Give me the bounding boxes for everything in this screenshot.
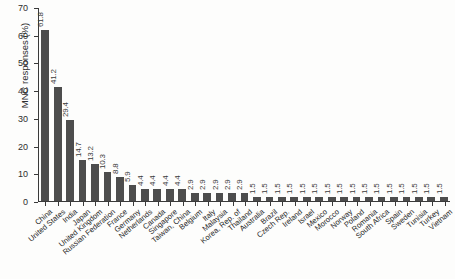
bar-value-label: 1.5	[249, 183, 257, 194]
bar-chart-figure: MNC responses (%) 010203040506070 61.841…	[0, 0, 455, 279]
bar-slot: 1.5	[288, 8, 300, 201]
bar[interactable]: 2.9	[203, 193, 211, 201]
bar-value-label: 10.3	[99, 155, 107, 170]
bar-slot: 61.8	[39, 8, 51, 201]
x-tick	[83, 202, 84, 206]
x-tick	[257, 202, 258, 206]
bar[interactable]: 4.4	[166, 189, 174, 201]
bar-value-label: 1.5	[261, 183, 269, 194]
bar-slot: 4.4	[151, 8, 163, 201]
bar-value-label: 4.4	[149, 175, 157, 186]
bar-slot: 5.9	[126, 8, 138, 201]
bar[interactable]: 4.4	[153, 189, 161, 201]
bar[interactable]: 1.5	[278, 197, 286, 201]
bar-slot: 14.7	[76, 8, 88, 201]
bar-slot: 1.5	[251, 8, 263, 201]
y-tick-20: 20	[34, 147, 38, 148]
bar[interactable]: 1.5	[290, 197, 298, 201]
bar[interactable]: 1.5	[253, 197, 261, 201]
plot-area: 010203040506070 61.841.229.414.713.210.3…	[38, 8, 450, 202]
bar-value-label: 13.2	[87, 147, 95, 162]
bar[interactable]: 1.5	[340, 197, 348, 201]
bar[interactable]: 1.5	[427, 197, 435, 201]
bar[interactable]: 13.2	[91, 164, 99, 201]
x-tick	[432, 202, 433, 206]
x-tick	[95, 202, 96, 206]
bar[interactable]: 1.5	[315, 197, 323, 201]
bar[interactable]: 1.5	[353, 197, 361, 201]
x-tick	[270, 202, 271, 206]
y-tick-label-50: 50	[18, 59, 28, 68]
bar[interactable]: 2.9	[191, 193, 199, 201]
bar-value-label: 1.5	[286, 183, 294, 194]
bar[interactable]: 4.4	[141, 189, 149, 201]
bar-slot: 1.5	[325, 8, 337, 201]
bar-slot: 1.5	[400, 8, 412, 201]
bar-slot: 29.4	[64, 8, 76, 201]
bar-slot: 4.4	[139, 8, 151, 201]
bar-slot: 4.4	[164, 8, 176, 201]
bar-slot: 1.5	[375, 8, 387, 201]
x-tick	[183, 202, 184, 206]
bar[interactable]: 1.5	[403, 197, 411, 201]
x-tick	[320, 202, 321, 206]
bar-slot: 1.5	[263, 8, 275, 201]
bar-value-label: 1.5	[324, 183, 332, 194]
bar-slot: 1.5	[438, 8, 450, 201]
x-tick	[233, 202, 234, 206]
x-tick	[445, 202, 446, 206]
bar[interactable]: 10.3	[104, 172, 112, 201]
x-tick	[382, 202, 383, 206]
bar-value-label: 1.5	[311, 183, 319, 194]
y-axis-title: MNC responses (%)	[19, 0, 30, 146]
y-tick-40: 40	[34, 91, 38, 92]
bar[interactable]: 61.8	[41, 30, 49, 201]
bar[interactable]: 4.4	[178, 189, 186, 201]
bar[interactable]: 2.9	[228, 193, 236, 201]
bar-value-label: 4.4	[174, 175, 182, 186]
y-tick-50: 50	[34, 63, 38, 64]
bar-value-label: 1.5	[373, 183, 381, 194]
bar-slot: 2.9	[201, 8, 213, 201]
bar[interactable]: 14.7	[79, 160, 87, 201]
bar[interactable]: 2.9	[241, 193, 249, 201]
bar-value-label: 2.9	[187, 179, 195, 190]
x-tick	[170, 202, 171, 206]
x-tick	[307, 202, 308, 206]
x-tick	[58, 202, 59, 206]
bar-value-label: 29.4	[62, 102, 70, 117]
bar[interactable]: 29.4	[66, 120, 74, 201]
bar-value-label: 8.8	[112, 163, 120, 174]
bar-value-label: 1.5	[336, 183, 344, 194]
bar-slot: 1.5	[363, 8, 375, 201]
y-tick-label-20: 20	[18, 142, 28, 151]
bar-value-label: 1.5	[423, 183, 431, 194]
bar-slot: 1.5	[276, 8, 288, 201]
bar[interactable]: 2.9	[216, 193, 224, 201]
x-axis-category-labels: ChinaUnited StatesIndiaJapanUnited Kingd…	[39, 208, 451, 278]
x-tick	[357, 202, 358, 206]
x-tick	[108, 202, 109, 206]
bar[interactable]: 1.5	[440, 197, 448, 201]
bar[interactable]: 1.5	[390, 197, 398, 201]
bar[interactable]: 1.5	[378, 197, 386, 201]
y-tick-label-70: 70	[18, 4, 28, 13]
bar-slot: 1.5	[338, 8, 350, 201]
x-tick	[133, 202, 134, 206]
bar[interactable]: 5.9	[129, 185, 137, 201]
bar[interactable]: 1.5	[303, 197, 311, 201]
bar[interactable]: 1.5	[415, 197, 423, 201]
bar-slot: 13.2	[89, 8, 101, 201]
bar[interactable]: 1.5	[365, 197, 373, 201]
x-tick	[195, 202, 196, 206]
bar-slot: 1.5	[413, 8, 425, 201]
x-tick	[295, 202, 296, 206]
bar-slot: 2.9	[213, 8, 225, 201]
bar[interactable]: 1.5	[266, 197, 274, 201]
bar-slot: 1.5	[301, 8, 313, 201]
bar-value-label: 1.5	[386, 183, 394, 194]
y-tick-label-10: 10	[18, 170, 28, 179]
bar-value-label: 1.5	[411, 183, 419, 194]
x-tick	[332, 202, 333, 206]
bar[interactable]: 1.5	[328, 197, 336, 201]
